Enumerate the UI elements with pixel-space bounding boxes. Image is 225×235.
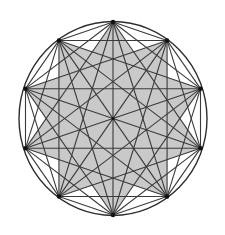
vertex-dot: [23, 86, 27, 90]
vertex-dot: [111, 213, 115, 217]
vertex-dot: [23, 146, 27, 150]
vertex-dot: [111, 20, 115, 24]
vertex-dot: [198, 86, 202, 90]
geometric-diagram: [0, 0, 225, 235]
vertex-dot: [165, 194, 169, 198]
vertex-dot: [198, 146, 202, 150]
vertex-dot: [57, 38, 61, 42]
center-point: [111, 117, 114, 120]
vertex-dot: [165, 38, 169, 42]
vertex-dot: [57, 194, 61, 198]
